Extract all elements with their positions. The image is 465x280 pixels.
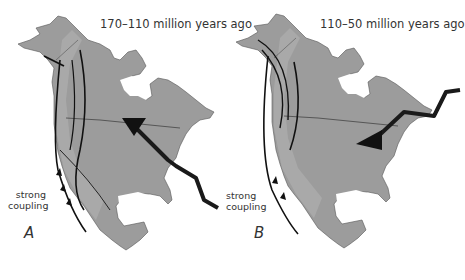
label-line-2: coupling [226, 201, 266, 212]
strong-coupling-label: strong coupling [226, 190, 266, 212]
north-america-map-a [0, 0, 232, 280]
continent-shape [236, 14, 432, 248]
label-line-2: coupling [8, 200, 46, 211]
panel-title: 110–50 million years ago [320, 17, 465, 31]
continent-shape [18, 16, 214, 250]
panel-letter: B [254, 224, 264, 242]
label-line-1: strong [226, 190, 266, 201]
panel-title: 170–110 million years ago [100, 17, 252, 31]
north-america-map-b [232, 0, 464, 280]
panel-b: 110–50 million years ago strong coupling… [232, 0, 464, 280]
label-line-1: strong [8, 189, 46, 200]
panel-a: 170–110 million years ago strong couplin… [0, 0, 232, 280]
strong-coupling-label: strong coupling [8, 189, 46, 211]
panel-letter: A [24, 224, 34, 242]
